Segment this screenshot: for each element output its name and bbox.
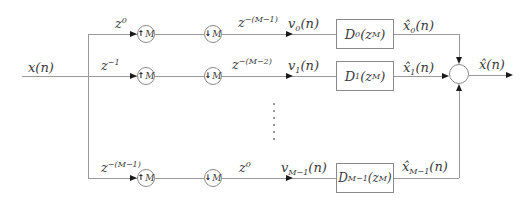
math-args: (n) xyxy=(429,159,448,174)
vertical-ellipsis xyxy=(273,103,275,140)
row2-wire-c xyxy=(222,76,336,77)
row3-delay-in-label: z−(M−1) xyxy=(101,161,141,175)
sum-top-arrowhead-icon xyxy=(456,57,462,64)
row1-v-signal-label: v0(n) xyxy=(288,17,319,34)
row2-delay-out-label: z−(M−2) xyxy=(232,58,272,72)
row2-xhat-signal-label: x̂1(n) xyxy=(403,61,434,78)
row3-wire-up xyxy=(459,91,460,178)
row1-arrowhead-icon xyxy=(130,31,137,37)
ellipsis-dot xyxy=(273,110,275,112)
math-base: z xyxy=(238,15,245,30)
row3-delay-out-label: z0 xyxy=(239,161,251,175)
math-args: (z xyxy=(360,27,372,42)
row1-upsampler: ↑M xyxy=(137,25,155,43)
row2-filter-box: D1(zM) xyxy=(336,61,394,91)
row2-delay-in-label: z−1 xyxy=(101,59,120,73)
row1-wire-b xyxy=(155,34,204,35)
branch-trunk-wire xyxy=(88,34,89,178)
math-base: D xyxy=(345,69,355,84)
row1-delay-out-label: z−(M−1) xyxy=(238,16,278,30)
row3-wire-b xyxy=(155,178,204,179)
row1-downsampler: ↓M xyxy=(204,25,222,43)
output-wire xyxy=(469,75,506,76)
row2-arrowhead-icon xyxy=(130,73,137,79)
math-args: (n) xyxy=(300,16,319,31)
math-sup: −(M−1) xyxy=(245,15,278,24)
math-args: ) xyxy=(387,171,392,185)
row3-wire-d xyxy=(394,178,459,179)
math-sup: −1 xyxy=(108,58,120,67)
sampling-factor: M xyxy=(212,174,221,183)
math-sub: M−1 xyxy=(348,174,368,183)
up-arrow-icon: ↑ xyxy=(138,72,145,80)
math-args: (n) xyxy=(300,58,319,73)
math-args: (n) xyxy=(415,60,434,75)
row1-filter-box: D0(zM) xyxy=(336,19,394,49)
row3-downsampler: ↓M xyxy=(204,169,222,187)
filter-bank-diagram: x(n) x̂(n) z0 ↑M ↓M z−(M−1) v0(n) D0(zM)… xyxy=(0,0,530,211)
math-args: (z xyxy=(368,171,379,185)
summing-junction xyxy=(449,64,469,84)
down-arrow-icon: ↓ xyxy=(205,30,212,38)
row1-xhat-signal-label: x̂0(n) xyxy=(403,19,434,36)
math-base: z xyxy=(239,160,246,175)
row3-v-signal-label: vM−1(n) xyxy=(281,161,327,178)
math-args: (n) xyxy=(486,57,505,72)
row2-downsampler: ↓M xyxy=(204,67,222,85)
sampling-factor: M xyxy=(145,30,154,39)
sum-bottom-arrowhead-icon xyxy=(456,84,462,91)
ellipsis-dot xyxy=(273,131,275,133)
row3-arrowhead-icon xyxy=(130,175,137,181)
row3-xhat-signal-label: x̂M−1(n) xyxy=(402,160,448,177)
up-arrow-icon: ↑ xyxy=(138,30,145,38)
math-base: D xyxy=(338,171,348,185)
ellipsis-dot xyxy=(273,138,275,140)
math-args: ) xyxy=(380,27,385,42)
math-args: (z xyxy=(360,69,372,84)
ellipsis-dot xyxy=(273,124,275,126)
input-wire xyxy=(22,76,88,77)
math-sup: −(M−2) xyxy=(239,57,272,66)
row2-upsampler: ↑M xyxy=(137,67,155,85)
row1-delay-in-label: z0 xyxy=(115,17,127,31)
math-base: z xyxy=(101,58,108,73)
math-base: D xyxy=(345,27,355,42)
output-signal-label: x̂(n) xyxy=(479,58,505,72)
ellipsis-dot xyxy=(273,117,275,119)
down-arrow-icon: ↓ xyxy=(205,72,212,80)
math-base: z xyxy=(101,160,108,175)
row3-upsampler: ↑M xyxy=(137,169,155,187)
math-sup: 0 xyxy=(246,160,251,169)
math-base: z xyxy=(115,16,122,31)
math-sup: M xyxy=(379,174,387,183)
math-args: ) xyxy=(380,69,385,84)
sum-left-arrowhead-icon xyxy=(442,73,449,79)
row2-v-signal-label: v1(n) xyxy=(288,59,319,76)
math-sup: 0 xyxy=(122,16,127,25)
row3-filter-box: DM−1(zM) xyxy=(336,163,394,193)
row3-wire-c xyxy=(222,178,336,179)
sampling-factor: M xyxy=(145,72,154,81)
math-sub: M−1 xyxy=(409,167,429,176)
ellipsis-dot xyxy=(273,103,275,105)
output-arrowhead-icon xyxy=(506,72,513,78)
down-arrow-icon: ↓ xyxy=(205,174,212,182)
math-args: (n) xyxy=(35,60,54,75)
math-args: (n) xyxy=(415,18,434,33)
math-sub: M−1 xyxy=(288,168,308,177)
row1-wire-down xyxy=(459,34,460,57)
sampling-factor: M xyxy=(145,174,154,183)
math-args: (n) xyxy=(308,160,327,175)
math-sup: −(M−1) xyxy=(108,160,141,169)
math-base: z xyxy=(232,57,239,72)
row1-wire-c xyxy=(222,34,336,35)
sampling-factor: M xyxy=(212,72,221,81)
input-signal-label: x(n) xyxy=(28,61,54,75)
up-arrow-icon: ↑ xyxy=(138,174,145,182)
row2-wire-b xyxy=(155,76,204,77)
sampling-factor: M xyxy=(212,30,221,39)
